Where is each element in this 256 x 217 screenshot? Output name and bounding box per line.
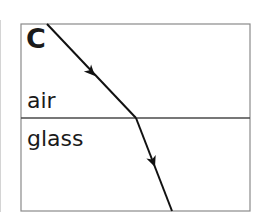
panel-label: C xyxy=(26,25,46,52)
medium-label-air: air xyxy=(27,90,56,112)
medium-label-glass: glass xyxy=(27,128,83,150)
refracted-arrow-icon xyxy=(146,155,159,169)
